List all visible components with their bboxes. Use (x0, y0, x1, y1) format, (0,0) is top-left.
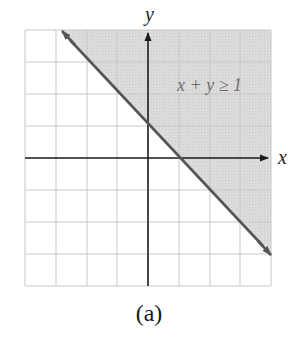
inequality-label: x + y ≥ 1 (176, 75, 242, 95)
x-axis-label: x (277, 146, 287, 168)
y-axis-label: y (143, 3, 154, 26)
figure-caption: (a) (0, 300, 298, 327)
inequality-graph: y x x + y ≥ 1 (0, 0, 298, 344)
